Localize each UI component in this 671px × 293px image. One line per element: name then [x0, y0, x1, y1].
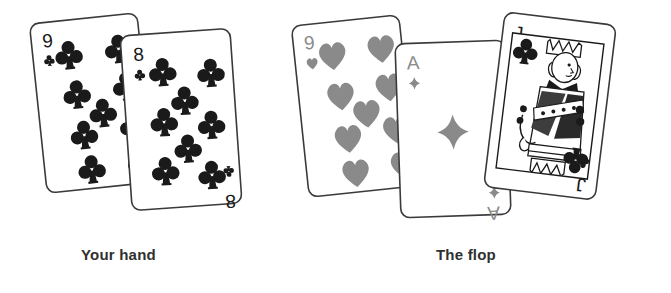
poker-illustration: 9 9 8 — [0, 0, 671, 293]
card-8-clubs[interactable]: 8 8 — [120, 28, 242, 218]
card-index-top: 9 — [41, 30, 54, 52]
card-index-bottom: 8 — [225, 190, 237, 212]
the-flop-label: The flop — [436, 246, 496, 263]
card-j-clubs[interactable]: J — [484, 12, 617, 200]
card-index-top: 9 — [303, 32, 316, 54]
card-index-top: A — [406, 52, 420, 73]
card-index-bottom: A — [487, 202, 501, 223]
card-index-top: 8 — [133, 43, 145, 65]
your-hand-label: Your hand — [81, 246, 156, 263]
court-figure — [496, 33, 604, 179]
